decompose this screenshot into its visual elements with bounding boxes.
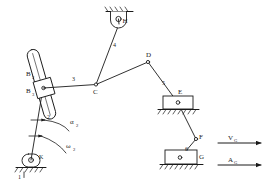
motion-annotations: α 2 ω 2 [66,118,79,152]
mechanism-diagram: H C D E F G K B 2 B 3 1 2 3 4 5 6 α 2 ω … [0,0,268,182]
link-label-4: 4 [113,42,116,48]
svg-text:G: G [234,160,238,165]
joint-D-pin [146,60,149,63]
link-label-5: 5 [162,80,165,86]
link-4-rocker [96,24,119,85]
joint-label-E: E [178,88,182,96]
link-label-2: 2 [47,114,50,120]
link-2-bar [26,48,57,160]
joint-label-K: K [39,154,44,160]
link-label-3: 3 [72,76,75,82]
slider-block-E [158,96,199,114]
svg-text:A: A [228,156,233,164]
svg-text:V: V [228,134,233,142]
output-vectors [218,143,261,165]
link-label-6: 6 [185,146,188,152]
slider-block-G [160,150,203,169]
joint-C-pin [94,83,97,86]
svg-text:α: α [70,118,74,126]
link-label-1: 1 [18,174,21,180]
aG-label: A G [228,156,238,165]
joint-label-H: H [123,17,128,25]
omega2-label: ω 2 [66,142,76,152]
joint-label-B3: B 3 [26,87,35,97]
joint-label-G: G [199,153,204,161]
svg-text:3: 3 [32,92,35,97]
ground-support-H [105,7,133,28]
svg-text:G: G [234,138,238,143]
alpha2-label: α 2 [70,118,79,128]
diagram-canvas: H C D E F G K B 2 B 3 1 2 3 4 5 6 α 2 ω … [0,0,268,182]
joint-label-F: F [199,133,203,141]
vG-label: V G [228,134,238,143]
svg-text:ω: ω [66,142,71,150]
vector-labels: V G A G [228,134,238,165]
svg-text:B: B [26,87,31,95]
joint-label-C: C [93,88,98,96]
svg-text:B: B [26,70,31,78]
joint-label-D: D [146,51,151,59]
svg-text:2: 2 [76,123,79,128]
joint-F-pin [194,137,197,140]
svg-text:2: 2 [73,147,76,152]
